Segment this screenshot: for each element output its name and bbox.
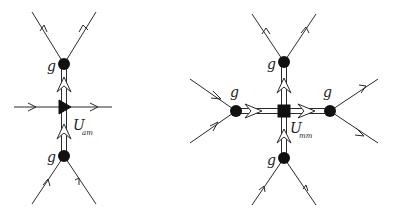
right-right-lower-leg (330, 111, 378, 143)
right-propagator-subscript: mm (299, 132, 313, 140)
left-diagram (14, 12, 112, 204)
right-top-left-leg (252, 14, 284, 62)
bottom-g-node (58, 150, 70, 162)
left-propagator-subscript: am (82, 129, 93, 137)
left-top-g-label: g (47, 58, 56, 74)
right-top-g-node (278, 56, 290, 68)
right-top-g-label: g (267, 56, 276, 72)
right-bottom-g-label: g (267, 152, 276, 168)
right-right-upper-leg (330, 79, 378, 111)
triangle-node (59, 100, 71, 114)
right-top-right-leg (284, 14, 316, 62)
right-right-g-node (324, 105, 336, 117)
bottom-right-leg (64, 156, 96, 204)
right-left-lower-leg (190, 111, 236, 143)
square-node (278, 105, 290, 117)
right-bottom-g-node (278, 152, 290, 164)
top-left-leg (32, 12, 64, 64)
right-diagram (190, 14, 378, 205)
top-g-node (58, 58, 70, 70)
right-left-g-label: g (230, 84, 239, 100)
right-left-g-node (230, 105, 242, 117)
left-bottom-g-label: g (47, 149, 56, 165)
right-right-g-label: g (323, 84, 332, 100)
right-bottom-right-leg (284, 158, 316, 205)
top-right-leg (64, 12, 96, 64)
feynman-diagrams: g g U am (0, 0, 395, 216)
